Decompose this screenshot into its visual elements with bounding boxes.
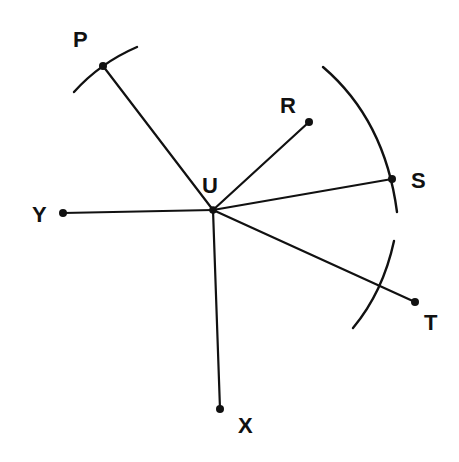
label-y: Y [32, 202, 47, 227]
label-s: S [411, 168, 426, 193]
label-x: X [238, 413, 253, 438]
segment-up [103, 66, 213, 210]
labels: U P R S T Y X [32, 27, 438, 438]
point-u [209, 206, 217, 214]
arc-crossing-ut [353, 241, 394, 328]
label-u: U [202, 173, 218, 198]
point-r [305, 118, 313, 126]
label-r: R [280, 93, 296, 118]
label-p: P [73, 27, 88, 52]
point-t [411, 298, 419, 306]
segment-ux [213, 210, 220, 409]
point-y [59, 209, 67, 217]
segment-us [213, 179, 392, 210]
point-x [216, 405, 224, 413]
segment-ut [213, 210, 415, 302]
arc-through-s [323, 67, 397, 212]
geometry-diagram: U P R S T Y X [0, 0, 459, 462]
point-p [99, 62, 107, 70]
segment-uy [63, 210, 213, 213]
label-t: T [424, 310, 438, 335]
point-s [388, 175, 396, 183]
segments [63, 66, 415, 409]
